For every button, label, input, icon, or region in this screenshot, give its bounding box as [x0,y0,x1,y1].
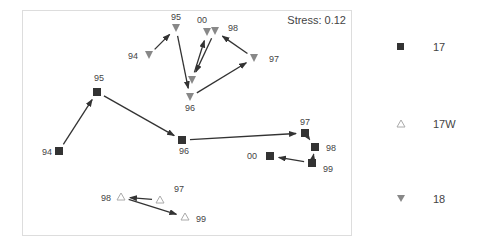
trajectory-arrow [155,34,170,49]
legend-item-17w: 17W [395,118,456,130]
point-label: 96 [179,146,189,156]
data-point-marker [145,51,153,59]
point-label: 95 [94,73,104,83]
data-point-marker [93,88,101,96]
trajectory-arrow [279,157,304,161]
data-point-marker [186,93,194,101]
point-label: 00 [197,15,207,25]
data-points: 94959697989900979899949596979800 [42,12,336,224]
down-triangle-marker-icon [395,193,407,205]
legend-item-17: 17 [395,41,445,53]
trajectory-arrow [190,134,296,140]
data-point-marker [178,136,186,144]
trajectory-arrow [63,100,92,145]
data-point-marker [55,147,63,155]
trajectory-arrow [129,199,177,214]
point-label: 99 [323,164,333,174]
trajectory-arrow [130,198,152,200]
data-point-marker [188,76,196,84]
trajectory-arrow [178,36,189,88]
point-label: 98 [228,23,238,33]
data-point-marker [308,159,316,167]
data-point-marker [203,28,211,36]
point-label: 97 [300,117,310,127]
point-label: 97 [269,54,279,64]
data-point-marker [156,196,164,203]
point-label: 00 [247,151,257,161]
point-label: 96 [185,103,195,113]
point-label: 95 [171,12,181,22]
data-point-marker [250,54,258,62]
point-label: 94 [42,147,52,157]
point-label: 94 [128,51,138,61]
data-point-marker [181,213,189,220]
data-point-marker [211,27,219,35]
square-marker-icon [395,41,407,53]
point-label: 98 [101,193,111,203]
trajectory-arrow [197,63,246,93]
legend-item-18: 18 [395,193,445,205]
point-label: 99 [196,214,206,224]
data-point-marker [172,24,180,32]
data-point-marker [301,129,309,137]
data-point-marker [311,143,319,151]
data-point-marker [266,152,274,160]
trajectory-arrow [104,96,174,136]
stress-annotation: Stress: 0.12 [287,14,346,26]
point-label: 98 [326,143,336,153]
data-point-marker [117,193,125,200]
trajectory-arrow [222,36,247,53]
point-label: 97 [174,184,184,194]
open-triangle-marker-icon [395,118,407,130]
